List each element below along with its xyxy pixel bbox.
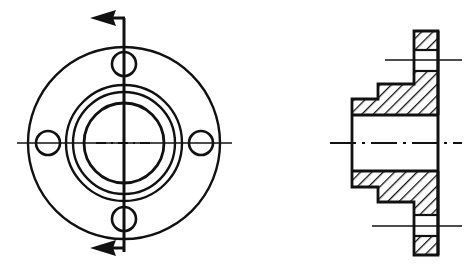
technical-drawing-canvas [0,0,465,269]
drawing-svg [0,0,465,269]
drawing-background [0,0,465,269]
